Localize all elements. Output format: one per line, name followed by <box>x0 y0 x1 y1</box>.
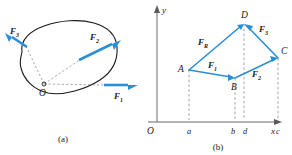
panel-a: O F 3 F 2 <box>5 21 138 144</box>
force-f3-sub-b: 3 <box>264 30 268 36</box>
force-label-f2-a: F 2 <box>89 32 99 44</box>
x-axis: x <box>148 119 282 136</box>
force-f2-base-b: F <box>251 69 258 79</box>
y-axis-label: y <box>161 5 166 15</box>
force-vector-f1-b <box>189 70 235 81</box>
force-fr-sub-b: R <box>203 43 208 49</box>
figure-root: O F 3 F 2 <box>0 0 292 155</box>
x-tick-labels: a b d c <box>187 126 280 136</box>
rigid-body-outline <box>20 21 117 94</box>
force-f1-sub-a: 1 <box>120 97 123 103</box>
y-axis: y <box>154 5 166 122</box>
x-tick-b: b <box>231 126 235 136</box>
force-f1-base-b: F <box>207 60 214 70</box>
vertex-label-c: C <box>281 46 288 56</box>
caption-panel-a: (a) <box>58 134 68 144</box>
vertex-label-a: A <box>177 64 184 74</box>
force-f2-sub-b: 2 <box>257 75 261 81</box>
force-vector-fr-b <box>189 24 244 70</box>
force-f3-base-a: F <box>9 26 16 36</box>
force-f1-base-a: F <box>113 91 120 101</box>
force-label-f3-b: F 3 <box>258 24 268 36</box>
force-label-f1-b: F 1 <box>207 60 217 72</box>
vertex-label-b: B <box>231 82 237 92</box>
force-label-fr-b: F R <box>197 37 208 49</box>
force-f1-sub-b: 1 <box>214 66 217 72</box>
ray-to-F3 <box>25 44 44 84</box>
x-tick-d: d <box>243 126 248 136</box>
ray-to-F2 <box>44 59 81 84</box>
vertex-label-d: D <box>240 10 248 20</box>
force-fr-base-b: F <box>197 37 204 47</box>
physics-figure: O F 3 F 2 <box>0 0 292 155</box>
force-f3-sub-a: 3 <box>15 32 19 38</box>
force-label-f2-b: F 2 <box>251 69 261 81</box>
ray-to-F1 <box>44 84 106 85</box>
x-tick-c: c <box>276 126 280 136</box>
moment-arm-rays <box>25 44 106 85</box>
point-o-label-a: O <box>39 88 46 98</box>
x-axis-label: x <box>270 126 275 136</box>
caption-panel-b: (b) <box>213 142 224 152</box>
point-o-label-b: O <box>147 126 154 136</box>
panel-b: y x O a b d c <box>147 5 288 152</box>
force-vector-f1-a <box>104 85 138 90</box>
force-vector-f2-a <box>79 40 121 60</box>
force-f2-sub-a: 2 <box>95 38 99 44</box>
force-f2-base-a: F <box>89 32 96 42</box>
force-f3-base-b: F <box>258 24 265 34</box>
force-label-f1-a: F 1 <box>113 91 123 103</box>
x-tick-a: a <box>187 126 191 136</box>
